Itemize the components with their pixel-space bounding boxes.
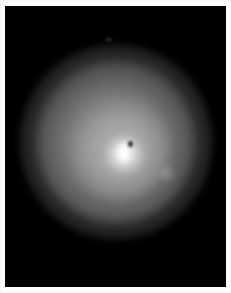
companion-knot	[157, 163, 175, 183]
photo-frame: Diffuse halo around a bright compact nuc…	[0, 0, 231, 293]
plate-grain-texture	[5, 6, 226, 287]
halo-ring-layer	[43, 68, 189, 216]
sky-plate	[5, 6, 226, 287]
dark-absorption-notch	[128, 141, 133, 147]
halo-outer-layer	[19, 44, 213, 240]
halo-mid-layer	[38, 62, 194, 222]
nucleus-glow	[101, 128, 147, 178]
nucleus-core	[116, 141, 132, 163]
faint-field-object	[105, 37, 113, 42]
plate-vignette	[5, 6, 226, 287]
halo-inner-layer	[69, 96, 169, 200]
